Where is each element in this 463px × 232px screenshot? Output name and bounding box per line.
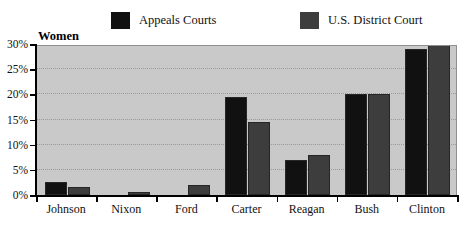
x-axis-line xyxy=(35,195,458,197)
bar xyxy=(428,45,450,195)
x-axis-tick xyxy=(277,195,279,202)
bar xyxy=(345,94,367,195)
bar xyxy=(225,97,247,195)
y-axis-tick-label: 0% xyxy=(0,190,28,202)
bar xyxy=(308,155,330,195)
x-axis-tick xyxy=(96,195,98,202)
gridline xyxy=(37,68,456,69)
plot-area xyxy=(36,45,457,196)
bar xyxy=(68,187,90,195)
legend-label-appeals-courts: Appeals Courts xyxy=(139,14,216,27)
gridline xyxy=(37,93,456,94)
bar xyxy=(285,160,307,195)
y-axis-tick xyxy=(30,69,36,71)
legend-swatch-appeals-courts xyxy=(111,12,130,29)
y-axis-tick xyxy=(30,44,36,46)
legend-label-district-court: U.S. District Court xyxy=(328,14,422,27)
x-axis-tick-label: Nixon xyxy=(96,203,156,215)
y-axis-tick xyxy=(30,145,36,147)
y-axis-tick xyxy=(30,94,36,96)
x-axis-tick-label: Ford xyxy=(156,203,216,215)
x-axis-tick xyxy=(156,195,158,202)
legend-entry-appeals-courts: Appeals Courts xyxy=(111,9,216,31)
x-axis-end-tick xyxy=(457,195,459,202)
x-axis-tick-label: Bush xyxy=(337,203,397,215)
bar xyxy=(45,182,67,195)
legend-swatch-district-court xyxy=(300,12,319,29)
x-axis-tick-label: Clinton xyxy=(397,203,457,215)
chart-title: Women xyxy=(38,30,79,43)
bar xyxy=(368,94,390,195)
x-axis-tick-label: Reagan xyxy=(277,203,337,215)
x-axis-end-tick xyxy=(36,195,38,202)
y-axis-tick xyxy=(30,120,36,122)
y-axis-tick-label: 15% xyxy=(0,115,28,127)
bar xyxy=(405,49,427,195)
y-axis-tick-label: 5% xyxy=(0,165,28,177)
y-axis-tick xyxy=(30,170,36,172)
y-axis-tick-label: 10% xyxy=(0,140,28,152)
legend-entry-district-court: U.S. District Court xyxy=(300,9,422,31)
chart-legend: Appeals Courts U.S. District Court xyxy=(0,9,463,31)
bar xyxy=(248,122,270,195)
x-axis-tick xyxy=(337,195,339,202)
y-axis-tick-label: 20% xyxy=(0,89,28,101)
y-axis-tick-label: 25% xyxy=(0,64,28,76)
y-axis-tick-label: 30% xyxy=(0,39,28,51)
x-axis-tick-label: Johnson xyxy=(36,203,96,215)
x-axis-tick xyxy=(216,195,218,202)
x-axis-tick xyxy=(397,195,399,202)
women-judges-bar-chart: Appeals Courts U.S. District Court Women… xyxy=(0,0,463,232)
bar xyxy=(188,185,210,195)
x-axis-tick-label: Carter xyxy=(216,203,276,215)
